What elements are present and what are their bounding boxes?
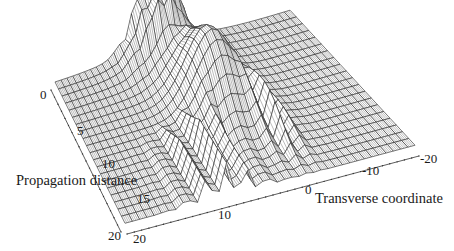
y-tick-15: 15	[137, 192, 150, 205]
x-tick-0: 0	[305, 183, 312, 196]
x-tick-10: 10	[218, 208, 231, 221]
x-axis-title: Transverse coordinate	[315, 191, 443, 206]
y-tick-0: 0	[40, 88, 47, 101]
y-tick-5: 5	[77, 124, 84, 137]
y-tick-10: 10	[102, 157, 115, 170]
x-tick-neg10: -10	[362, 164, 379, 177]
y-axis-title: Propagation distance	[16, 173, 137, 188]
x-tick-20: 20	[133, 232, 146, 245]
y-tick-20: 20	[108, 229, 121, 242]
x-tick-neg20: -20	[420, 152, 437, 165]
